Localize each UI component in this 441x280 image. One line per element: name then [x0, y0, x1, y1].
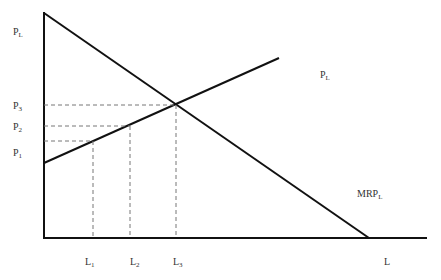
price-label-p1: P1 [13, 148, 22, 161]
diagram-canvas [0, 0, 441, 280]
quantity-label-l2: L2 [130, 257, 140, 270]
supply-curve-label: PL [320, 70, 330, 83]
quantity-label-l1: L1 [85, 257, 95, 270]
mrp-curve-label: MRPL [357, 189, 382, 202]
y-axis-label: PL [13, 27, 23, 40]
supply-curve [44, 58, 279, 163]
quantity-label-l3: L3 [173, 257, 183, 270]
price-label-p2: P2 [13, 122, 22, 135]
price-label-p3: P3 [13, 101, 22, 114]
x-axis-label: L [384, 257, 390, 267]
